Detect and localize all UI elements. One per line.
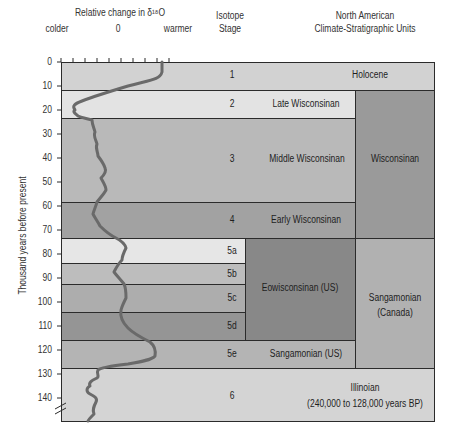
delta-o18-curve	[74, 62, 162, 421]
stage-5d-label: 5d	[224, 320, 241, 331]
axis-break-icon	[55, 403, 66, 414]
stage-5b-label: 5b	[224, 268, 241, 279]
left-axis-ticks	[57, 62, 61, 398]
top-axis-ticks	[61, 58, 169, 62]
sangamonian-us-label: Sangamonian (US)	[264, 348, 349, 359]
stage-5e-label: 5e	[224, 348, 241, 359]
stage-5c-label: 5c	[224, 292, 241, 303]
sangamonian-canada-line2: (Canada)	[361, 305, 429, 320]
early-wisconsinan-label: Early Wisconsinan	[264, 214, 349, 225]
sangamonian-canada-label: Sangamonian (Canada)	[361, 290, 429, 320]
stage-5a-label: 5a	[224, 245, 241, 256]
sangamonian-canada-line1: Sangamonian	[361, 290, 429, 305]
illinoian-label: Illinoian (240,000 to 128,000 years BP)	[301, 380, 429, 412]
holocene-label: Holocene	[336, 69, 404, 80]
middle-wisconsinan-label: Middle Wisconsinan	[260, 153, 354, 164]
stage-4-label: 4	[224, 214, 241, 225]
stage-6-label: 6	[224, 390, 241, 401]
eowisconsinan-label: Eowisconsinan (US)	[258, 282, 343, 293]
illinoian-line2: (240,000 to 128,000 years BP)	[301, 396, 429, 412]
wisconsinan-label: Wisconsinan	[361, 153, 429, 164]
stage-2-label: 2	[224, 98, 241, 109]
stage-1-label: 1	[224, 69, 241, 80]
illinoian-line1: Illinoian	[301, 380, 429, 396]
late-wisconsinan-label: Late Wisconsinan	[264, 98, 349, 109]
stage-3-label: 3	[224, 153, 241, 164]
